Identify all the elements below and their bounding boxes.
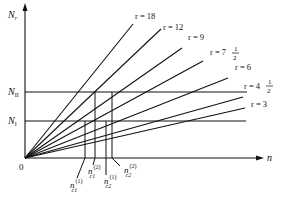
ray-label-r-7-5-den: 2 xyxy=(233,54,237,62)
ray-label-r-7-5-num: 1 xyxy=(234,45,238,53)
ray-r-3 xyxy=(25,108,245,158)
label-nc1-1: n(1)c1 xyxy=(70,178,83,193)
ray-r-6 xyxy=(25,78,228,158)
origin-label: 0 xyxy=(19,162,24,172)
ray-r-18 xyxy=(25,24,133,158)
ray-label-r-4-5-den: 2 xyxy=(267,87,271,95)
leader-nc2-2 xyxy=(112,158,120,166)
ray-label-r-7-5: r = 7 xyxy=(210,47,226,57)
ray-label-r-12: r = 12 xyxy=(163,22,183,32)
x-axis-arrow-icon xyxy=(256,156,264,161)
ray-r-9 xyxy=(25,48,182,158)
ray-label-r-3: r = 3 xyxy=(251,99,267,109)
level-label-n-ii: NII xyxy=(7,86,19,98)
y-axis-label: Nr xyxy=(7,9,18,21)
ray-label-r-9: r = 9 xyxy=(188,32,204,42)
ray-label-r-6: r = 6 xyxy=(235,62,251,72)
ray-label-r-4-5: r = 4 xyxy=(244,81,261,91)
level-label-n-i: NI xyxy=(7,115,17,127)
leader-nc1-1 xyxy=(77,158,85,178)
label-nc2-1: n(1)c2 xyxy=(104,174,117,189)
ray-label-r-18: r = 18 xyxy=(135,11,155,21)
ray-label-r-4-5-num: 1 xyxy=(268,78,272,86)
speed-ratio-diagram: Nr n 0 NII NI r = 18 r = 12 r = 9 r = 7 … xyxy=(0,0,282,207)
y-axis-arrow-icon xyxy=(23,3,28,11)
label-nc2-2: n(2)c2 xyxy=(124,163,137,178)
label-nc1-2: n(2)c1 xyxy=(88,164,101,179)
ray-r-7-5 xyxy=(25,61,203,158)
x-axis-label: n xyxy=(267,152,272,163)
